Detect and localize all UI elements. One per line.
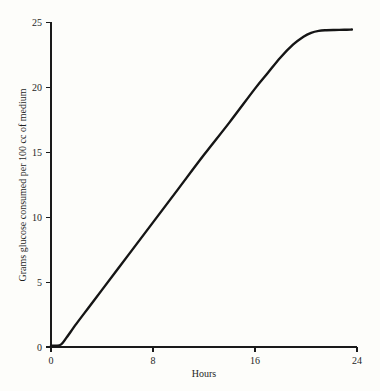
y-tick-label-5: 5 [37, 277, 42, 288]
y-tick-label-15: 15 [32, 147, 42, 158]
y-axis-ticks [46, 22, 51, 347]
x-tick-label-16: 16 [250, 355, 260, 366]
x-axis-ticks [51, 347, 357, 352]
y-tick-label-10: 10 [32, 212, 42, 223]
x-tick-label-0: 0 [49, 355, 54, 366]
y-axis-tick-labels: 0 5 10 15 20 25 [32, 17, 42, 353]
figure-page: 0 5 10 15 20 25 0 8 16 24 Hours Grams gl… [0, 0, 380, 391]
y-axis-title: Grams glucose consumed per 100 cc of med… [17, 88, 28, 281]
x-tick-label-24: 24 [352, 355, 362, 366]
glucose-consumption-line-chart: 0 5 10 15 20 25 0 8 16 24 Hours Grams gl… [0, 0, 380, 391]
glucose-consumption-curve [51, 30, 352, 346]
y-tick-label-25: 25 [32, 17, 42, 28]
x-axis-tick-labels: 0 8 16 24 [49, 355, 363, 366]
y-tick-label-20: 20 [32, 82, 42, 93]
x-axis-title: Hours [192, 368, 217, 379]
y-tick-label-0: 0 [37, 342, 42, 353]
x-tick-label-8: 8 [151, 355, 156, 366]
